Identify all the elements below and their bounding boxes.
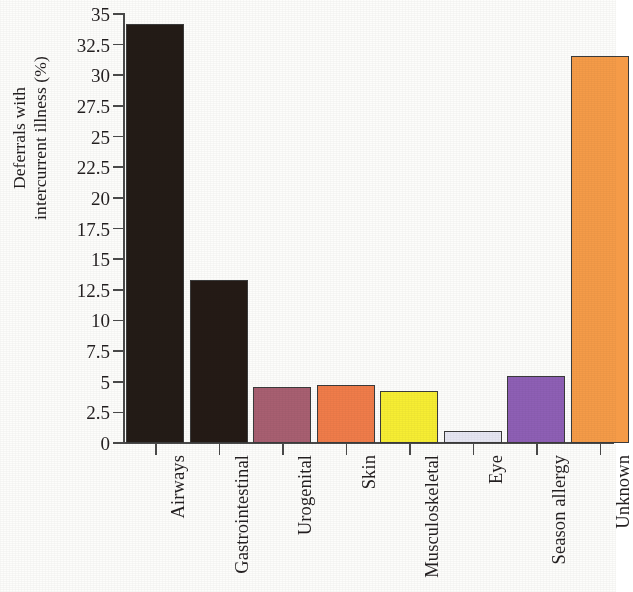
- x-axis-tick: [600, 444, 602, 455]
- y-axis-tick: [113, 350, 123, 352]
- bar-gastrointestinal: [190, 280, 248, 443]
- bar-airways: [126, 24, 184, 443]
- x-axis-label-unknown: Unknown: [611, 455, 633, 592]
- y-axis-tick: [113, 197, 123, 199]
- y-axis-tick: [113, 74, 123, 76]
- x-axis-tick: [219, 444, 221, 455]
- y-axis-tick-label: 35: [40, 5, 110, 24]
- y-axis-tick-label: 17.5: [40, 219, 110, 238]
- y-axis-tick: [113, 166, 123, 168]
- y-axis-tick: [113, 412, 123, 414]
- bar-urogenital: [253, 387, 311, 443]
- bar-eye: [444, 431, 502, 443]
- y-axis-tick-label: 2.5: [40, 403, 110, 422]
- x-axis-label-airways: Airways: [166, 455, 190, 592]
- x-axis-label-season-allergy: Season allergy: [547, 455, 571, 592]
- y-axis-tick: [113, 381, 123, 383]
- bar-season-allergy: [507, 376, 565, 443]
- bars-group: [125, 13, 614, 443]
- x-axis-label-eye: Eye: [484, 455, 508, 592]
- x-axis-tick: [282, 444, 284, 455]
- x-axis-label-musculoskeletal: Musculoskeletal: [420, 455, 444, 592]
- y-axis-tick-label: 22.5: [40, 158, 110, 177]
- y-axis-tick-label: 27.5: [40, 96, 110, 115]
- x-axis-labels: AirwaysGastrointestinalUrogenitalSkinMus…: [0, 455, 616, 592]
- y-axis-tick: [113, 442, 123, 444]
- y-axis-tick-label: 12.5: [40, 280, 110, 299]
- y-axis-tick-label: 32.5: [40, 35, 110, 54]
- y-axis-tick-label: 25: [40, 127, 110, 146]
- y-axis-tick: [113, 228, 123, 230]
- bar-skin: [317, 385, 375, 443]
- y-axis-tick: [113, 44, 123, 46]
- y-axis-tick-label: 30: [40, 66, 110, 85]
- y-axis-tick-label: 20: [40, 188, 110, 207]
- y-axis-tick: [113, 258, 123, 260]
- y-axis-tick: [113, 13, 123, 15]
- x-axis-tick: [155, 444, 157, 455]
- bar-musculoskeletal: [380, 391, 438, 443]
- y-axis-tick-label: 15: [40, 250, 110, 269]
- x-axis-tick: [473, 444, 475, 455]
- y-axis-tick-label: 7.5: [40, 342, 110, 361]
- y-axis-tick-label: 10: [40, 311, 110, 330]
- bar-unknown: [571, 56, 629, 443]
- y-axis-tick: [113, 136, 123, 138]
- y-axis-tick: [113, 289, 123, 291]
- x-axis-label-urogenital: Urogenital: [293, 455, 317, 592]
- y-axis-tick: [113, 105, 123, 107]
- y-axis-title-line-1: Deferrals with: [9, 87, 30, 189]
- x-axis-label-gastrointestinal: Gastrointestinal: [230, 455, 254, 592]
- x-axis-tick: [536, 444, 538, 455]
- x-axis-label-skin: Skin: [357, 455, 381, 592]
- x-axis-tick: [346, 444, 348, 455]
- x-axis-tick: [409, 444, 411, 455]
- y-axis-tick-label: 5: [40, 372, 110, 391]
- y-axis-tick: [113, 320, 123, 322]
- y-axis-tick-label: 0: [40, 434, 110, 453]
